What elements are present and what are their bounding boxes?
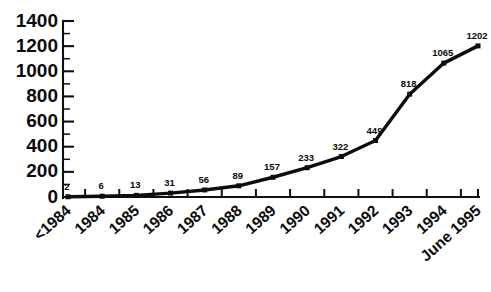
data-point-marker xyxy=(407,92,412,97)
data-point-label: 233 xyxy=(298,152,314,163)
data-point-marker xyxy=(271,175,276,180)
y-axis-tick-label: 1200 xyxy=(16,35,58,56)
y-axis-tick-label: 800 xyxy=(26,85,58,106)
data-point-label: 818 xyxy=(401,78,417,89)
data-point-marker xyxy=(441,61,446,66)
data-point-marker xyxy=(305,165,310,170)
data-point-label: 322 xyxy=(332,141,348,152)
data-point-label: 6 xyxy=(99,180,104,191)
data-point-marker xyxy=(476,43,481,48)
data-point-label: 56 xyxy=(198,174,209,185)
data-point-label: 1065 xyxy=(432,47,454,58)
y-axis-tick-label: 400 xyxy=(26,135,58,156)
data-point-marker xyxy=(236,183,241,188)
data-point-label: 2 xyxy=(64,181,69,192)
y-axis-tick-label: 600 xyxy=(26,110,58,131)
y-axis-tick-label: 1400 xyxy=(16,10,58,31)
data-point-label: 157 xyxy=(264,161,280,172)
data-point-marker xyxy=(100,194,105,199)
data-point-marker xyxy=(168,191,173,196)
data-point-marker xyxy=(373,138,378,143)
data-point-label: 1202 xyxy=(466,30,487,41)
data-point-marker xyxy=(66,194,71,199)
data-point-label: 13 xyxy=(130,179,141,190)
chart-container: 0200400600800100012001400 <1984198419851… xyxy=(0,0,491,292)
y-axis-tick-label: 0 xyxy=(47,186,58,207)
data-point-marker xyxy=(134,193,139,198)
data-point-marker xyxy=(202,187,207,192)
y-axis-tick-label: 200 xyxy=(26,160,58,181)
data-point-label: 89 xyxy=(233,170,244,181)
y-axis-tick-label: 1000 xyxy=(16,60,58,81)
data-point-marker xyxy=(339,154,344,159)
line-chart: 0200400600800100012001400 <1984198419851… xyxy=(0,0,491,292)
data-point-label: 449 xyxy=(367,125,383,136)
data-point-label: 31 xyxy=(164,177,175,188)
